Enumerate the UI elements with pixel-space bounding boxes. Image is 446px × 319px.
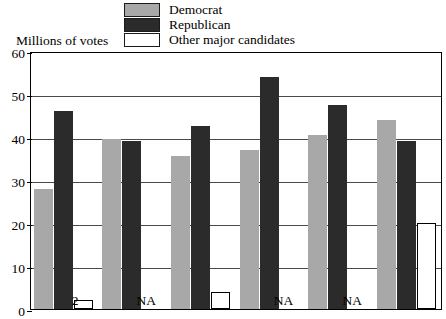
na-label: NA [274, 294, 294, 307]
legend-label-other: Other major candidates [169, 33, 295, 47]
bar-group: 2 [31, 53, 100, 309]
y-axis-tick-label: 50 [0, 89, 25, 105]
legend-item-republican: Republican [124, 17, 295, 32]
bar-republican[interactable] [191, 126, 210, 309]
y-axis-tick-label: 10 [0, 261, 25, 277]
bar-republican[interactable] [397, 141, 416, 309]
bar-democrat[interactable] [171, 156, 190, 309]
bar-group: NA [306, 53, 375, 309]
legend-swatch-democrat [124, 3, 160, 17]
bar-value-label: 2 [72, 294, 79, 307]
y-axis-tick-label: 40 [0, 132, 25, 148]
bar-democrat[interactable] [377, 120, 396, 309]
legend-label-democrat: Democrat [169, 3, 222, 17]
bar-republican[interactable] [122, 141, 141, 309]
bar-republican[interactable] [54, 111, 73, 309]
y-axis-tick-label: 0 [0, 304, 25, 319]
bar-democrat[interactable] [308, 135, 327, 309]
legend-label-republican: Republican [169, 18, 230, 32]
bar-group: NA [100, 53, 169, 309]
bar-group: NA [237, 53, 306, 309]
chart-root: Democrat Republican Other major candidat… [0, 0, 446, 319]
na-label: NA [136, 294, 156, 307]
legend-item-democrat: Democrat [124, 2, 295, 17]
bar-democrat[interactable] [34, 189, 53, 309]
bar-republican[interactable] [328, 105, 347, 309]
legend-item-other: Other major candidates [124, 32, 295, 47]
bar-republican[interactable] [260, 77, 279, 309]
bar-other[interactable] [417, 223, 436, 309]
y-axis-tick [27, 311, 32, 312]
bar-democrat[interactable] [102, 139, 121, 309]
na-label: NA [342, 294, 362, 307]
bar-other[interactable] [211, 292, 230, 309]
bar-group [374, 53, 443, 309]
y-axis-title: Millions of votes [16, 33, 108, 49]
y-axis-tick-label: 60 [0, 46, 25, 62]
y-axis-tick-label: 20 [0, 218, 25, 234]
chart-legend: Democrat Republican Other major candidat… [124, 2, 295, 47]
y-axis-tick-label: 30 [0, 175, 25, 191]
plot-area: 01020304050602NANANA [30, 52, 442, 310]
legend-swatch-republican [124, 18, 160, 32]
legend-swatch-other [124, 33, 160, 47]
bar-democrat[interactable] [240, 150, 259, 309]
bar-group [168, 53, 237, 309]
